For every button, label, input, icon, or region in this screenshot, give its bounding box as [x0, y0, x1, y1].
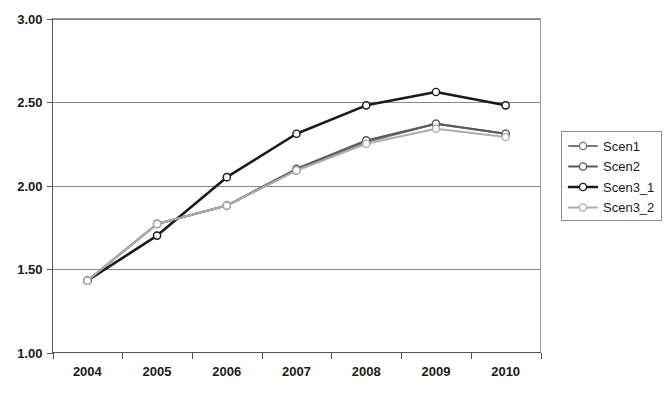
data-point-marker: [363, 140, 370, 147]
chart-canvas: 1.001.502.002.503.00 2004200520062007200…: [0, 0, 666, 397]
y-axis-tick-label: 2.50: [17, 95, 42, 110]
line-chart: 1.001.502.002.503.00 2004200520062007200…: [0, 0, 666, 397]
data-point-marker: [363, 102, 370, 109]
x-axis-tick-label: 2007: [282, 364, 311, 379]
legend-marker-icon: [579, 183, 586, 190]
legend-marker-icon: [579, 142, 586, 149]
data-point-marker: [432, 125, 439, 132]
legend-label: Scen2: [603, 159, 640, 174]
y-axis-tick-label: 3.00: [17, 12, 42, 27]
data-point-marker: [432, 88, 439, 95]
legend-label: Scen1: [603, 139, 640, 154]
x-axis-tick-label: 2006: [212, 364, 241, 379]
data-point-marker: [293, 167, 300, 174]
y-axis-tick-label: 2.00: [17, 179, 42, 194]
data-point-marker: [223, 174, 230, 181]
y-axis-tick-label: 1.00: [17, 346, 42, 361]
x-axis-tick-label: 2010: [491, 364, 520, 379]
y-axis-tick-label: 1.50: [17, 262, 42, 277]
data-point-marker: [502, 102, 509, 109]
legend-marker-icon: [579, 204, 586, 211]
chart-legend: Scen1Scen2Scen3_1Scen3_2: [562, 132, 662, 221]
x-axis-tick-label: 2005: [143, 364, 172, 379]
data-point-marker: [223, 202, 230, 209]
data-point-marker: [153, 220, 160, 227]
data-point-marker: [84, 277, 91, 284]
legend-label: Scen3_1: [603, 180, 654, 195]
legend-label: Scen3_2: [603, 200, 654, 215]
legend-marker-icon: [579, 163, 586, 170]
x-axis-tick-label: 2009: [421, 364, 450, 379]
data-point-marker: [293, 130, 300, 137]
x-axis-tick-label: 2008: [352, 364, 381, 379]
data-point-marker: [502, 133, 509, 140]
data-point-marker: [153, 232, 160, 239]
x-axis-tick-label: 2004: [73, 364, 103, 379]
